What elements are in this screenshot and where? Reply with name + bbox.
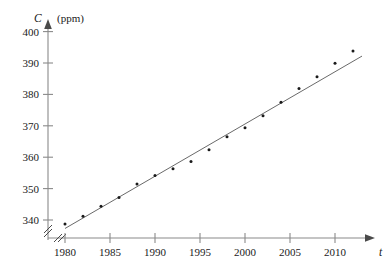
- y-tick-label-2: 360: [23, 151, 40, 163]
- y-tick-label-0: 340: [23, 214, 40, 226]
- data-point: [280, 101, 283, 104]
- y-tick-label-5: 390: [23, 57, 40, 69]
- data-point: [118, 196, 121, 199]
- y-tick-label-1: 350: [23, 183, 40, 195]
- x-tick-label-1: 1985: [99, 246, 122, 258]
- y-axis-arrow: [44, 19, 52, 29]
- data-point: [172, 167, 175, 170]
- x-tick-label-4: 2000: [234, 246, 257, 258]
- y-tick-labels-group: 340 350 360 370 380 390 400: [23, 26, 40, 226]
- data-point: [64, 223, 67, 226]
- x-tick-label-6: 2010: [324, 246, 347, 258]
- axes-group: [44, 19, 375, 242]
- data-point: [136, 182, 139, 185]
- x-tick-label-0: 1980: [54, 246, 77, 258]
- x-axis-title: t: [379, 246, 383, 258]
- x-axis-arrow: [365, 234, 375, 242]
- data-point: [190, 160, 193, 163]
- data-point: [262, 114, 265, 117]
- y-axis-title: C: [34, 12, 42, 24]
- y-axis-unit: (ppm): [57, 12, 84, 25]
- x-tick-labels-group: 1980 1985 1990 1995 2000 2005 2010: [54, 246, 347, 258]
- data-point: [208, 148, 211, 151]
- chart-svg: 340 350 360 370 380 390 400 1980 1985 19…: [0, 0, 392, 271]
- axis-break-marks: [44, 225, 66, 242]
- data-point: [298, 87, 301, 90]
- co2-scatter-chart: 340 350 360 370 380 390 400 1980 1985 19…: [0, 0, 392, 271]
- trend-line: [65, 56, 362, 228]
- data-points-group: [64, 50, 355, 226]
- data-point: [154, 174, 157, 177]
- data-point: [352, 50, 355, 53]
- data-point: [244, 126, 247, 129]
- data-point: [334, 62, 337, 65]
- data-point: [100, 205, 103, 208]
- y-tick-label-6: 400: [23, 26, 40, 38]
- x-tick-label-3: 1995: [189, 246, 212, 258]
- y-tick-label-3: 370: [23, 120, 40, 132]
- data-point: [316, 75, 319, 78]
- x-tick-label-5: 2005: [279, 246, 302, 258]
- y-tick-label-4: 380: [23, 88, 40, 100]
- data-point: [226, 135, 229, 138]
- data-point: [82, 215, 85, 218]
- x-tick-label-2: 1990: [144, 246, 167, 258]
